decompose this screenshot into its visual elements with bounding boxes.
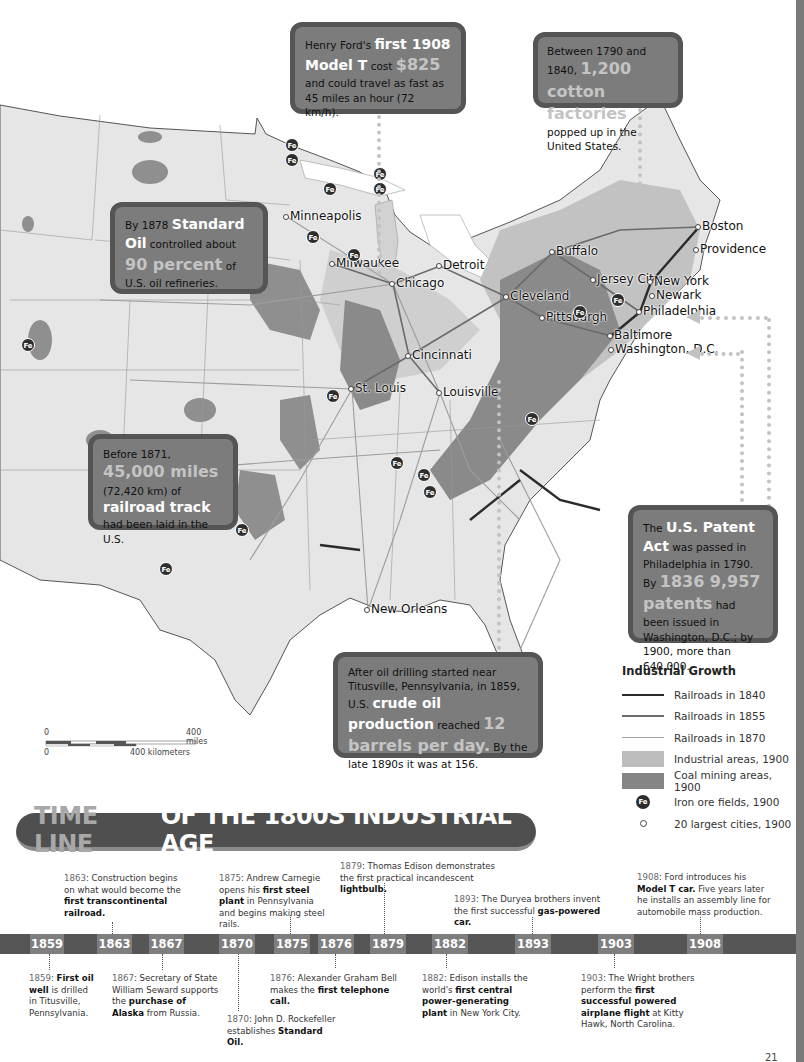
iron-ore-icon: Fe [326,389,340,403]
iron-ore-icon: Fe [235,523,249,537]
timeline-year-1903: 1903 [598,934,634,954]
iron-ore-icon: Fe [611,293,625,307]
railroad-line-swatch [622,694,664,697]
callout-ford: Henry Ford's first 1908 Model T cost $82… [290,22,466,114]
timeline-year-1875: 1875 [274,934,310,954]
city-dot-icon [405,353,411,359]
event-1859: 1859: First oil well is drilled in Titus… [29,973,94,1019]
area-swatch [622,773,664,789]
city-dot-icon [549,249,555,255]
city-dot-icon [364,607,370,613]
city-dot-icon [389,281,395,287]
timeline-year-1879: 1879 [370,934,406,954]
legend-item: Coal mining areas, 1900 [622,770,797,792]
callout-oil-production: After oil drilling started near Titusvil… [333,652,543,758]
event-1867: 1867: Secretary of State William Seward … [112,973,220,1019]
city-dot-icon [693,247,699,253]
legend-item-label: Coal mining areas, 1900 [674,769,797,793]
event-1882: 1882: Edison installs the world's first … [422,973,532,1019]
oil-connector [497,380,501,650]
event-1876: 1876: Alexander Graham Bell makes the fi… [270,973,405,1008]
timeline-year-1893: 1893 [515,934,551,954]
patent-connector-3 [740,350,744,510]
city-dot-icon [348,386,354,392]
legend-title: Industrial Growth [622,664,797,678]
city-dot-icon [329,261,335,267]
city-dot-icon [283,214,289,220]
legend-item: 20 largest cities, 1900 [622,813,797,835]
page-number: 21 [765,1052,778,1062]
city-dot-icon [436,263,442,269]
iron-ore-icon: Fe [622,795,664,809]
iron-ore-icon: Fe [159,562,173,576]
iron-ore-icon: Fe [347,248,361,262]
ford-connector [377,115,381,275]
tick-1859 [49,954,50,970]
city-label: Boston [695,219,743,233]
city-dot-icon [622,820,664,827]
iron-ore-icon: Fe [525,412,539,426]
city-label: St. Louis [348,381,406,395]
callout-railroad: Before 1871, 45,000 miles (72,420 km) of… [88,434,238,530]
tick-1870 [238,954,239,1011]
city-label: New Orleans [364,602,447,616]
patent-connector-1 [767,318,771,508]
city-dot-icon [590,277,596,283]
timeline-year-1876: 1876 [318,934,354,954]
cotton-connector [638,108,642,218]
legend-item: Industrial areas, 1900 [622,749,797,771]
arrow-left-icon [686,346,700,360]
city-label: Minneapolis [283,209,362,223]
timeline-year-1863: 1863 [97,934,132,954]
city-dot-icon [436,390,442,396]
arrow-left-icon [686,310,700,324]
legend-item-label: 20 largest cities, 1900 [674,818,791,830]
timeline-year-1882: 1882 [432,934,468,954]
event-1875: 1875: Andrew Carnegie opens his first st… [219,873,331,931]
event-1908: 1908: Ford introduces his Model T car. F… [637,872,772,918]
city-label: Buffalo [549,244,598,258]
legend-item: Railroads in 1840 [622,684,797,706]
city-dot-icon [636,309,642,315]
legend-item: Railroads in 1855 [622,706,797,728]
legend-item-label: Railroads in 1870 [674,732,765,744]
city-label: Cleveland [503,289,570,303]
city-dot-icon [607,333,613,339]
timeline-year-1870: 1870 [219,934,255,954]
timeline-title-part1: TIME LINE [34,802,153,858]
timeline-title-banner: TIME LINE OF THE 1800S INDUSTRIAL AGE [16,813,536,851]
callout-standard-oil: By 1878 Standard Oil controlled about 90… [110,202,268,294]
city-label: Milwaukee [329,256,399,270]
city-label: New York [647,274,709,288]
iron-ore-icon: Fe [285,138,299,152]
patent-connector-2 [700,316,768,320]
scale-km-zero: 0 [44,748,49,757]
tick-1908 [700,917,701,934]
city-dot-icon [608,347,614,353]
tick-1876 [335,954,336,968]
legend-item-label: Iron ore fields, 1900 [674,796,779,808]
timeline-year-1859: 1859 [30,934,64,954]
railroad-line-swatch [622,715,664,717]
callout-patent: The U.S. Patent Act was passed in Philad… [628,505,778,643]
city-label: Chicago [389,276,444,290]
legend-item-label: Industrial areas, 1900 [674,753,789,765]
iron-ore-icon: Fe [306,230,320,244]
scale-miles-zero: 0 [44,728,49,737]
legend-item: FeIron ore fields, 1900 [622,792,797,814]
city-dot-icon [695,224,701,230]
map-legend: Industrial Growth Railroads in 1840Railr… [622,664,797,835]
city-label: Detroit [436,258,484,272]
tick-1867 [162,954,163,970]
iron-ore-icon: Fe [573,305,587,319]
patent-connector-4 [700,352,740,356]
timeline-year-1867: 1867 [149,934,184,954]
event-1863: 1863: Construction begins on what would … [64,873,186,919]
tick-1882 [446,954,447,968]
railroad-line-swatch [622,737,664,738]
tick-1863 [112,922,113,934]
city-label: Newark [649,288,701,302]
legend-item: Railroads in 1870 [622,727,797,749]
scale-km-label: 400 kilometers [130,748,190,757]
iron-ore-icon: Fe [323,182,337,196]
